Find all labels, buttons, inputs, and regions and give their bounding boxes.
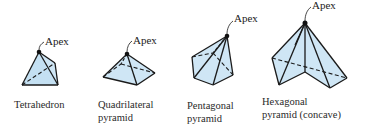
caption-line: Tetrahedron [14,98,65,111]
hexagonal-pyramid-caption: Hexagonal pyramid (concave) [262,95,341,121]
apex-dot [37,50,42,55]
apex-dot [125,52,130,57]
apex-label: Apex [133,34,157,46]
caption-line: pyramid [187,112,234,125]
caption-line: Quadrilateral [98,98,153,111]
quadrilateral-pyramid-figure: Apex [103,34,157,85]
caption-line: pyramid (concave) [262,108,341,121]
caption-line: pyramid [98,111,153,124]
apex-dot [303,21,308,26]
hexagonal-pyramid-figure: Apex [272,0,347,88]
pentagonal-pyramid-figure: Apex [192,12,258,85]
tetrahedron-figure: Apex [22,35,69,85]
apex-dot [225,34,230,39]
apex-label: Apex [234,12,258,24]
tetrahedron-caption: Tetrahedron [14,98,65,111]
apex-label: Apex [45,35,69,47]
caption-line: Pentagonal [187,99,234,112]
caption-line: Hexagonal [262,95,341,108]
apex-label: Apex [312,0,336,11]
pentagonal-pyramid-caption: Pentagonal pyramid [187,99,234,125]
quadrilateral-pyramid-caption: Quadrilateral pyramid [98,98,153,124]
